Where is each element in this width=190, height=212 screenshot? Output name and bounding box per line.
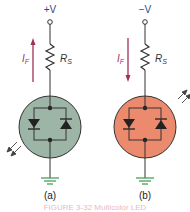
circuit-a: +V RS IF (7, 4, 81, 201)
current-label-b: IF (117, 53, 125, 65)
resistor-a (46, 44, 54, 70)
diagram: +V RS IF (0, 0, 190, 212)
current-arrowhead-up-icon (31, 38, 36, 45)
figure-caption: FIGURE 3-32 Multicolor LED (0, 203, 190, 212)
ground-icon (136, 178, 154, 184)
resistor-label-a: RS (60, 53, 72, 65)
supply-label-a: +V (44, 4, 57, 15)
circuit-b: −V RS IF (b) (114, 4, 190, 201)
sub-caption-b: (b) (139, 190, 151, 201)
supply-terminal-b (143, 20, 148, 25)
light-out-icon (178, 90, 190, 103)
current-label-a: IF (22, 53, 30, 65)
resistor-label-b: RS (155, 53, 167, 65)
sub-caption-a: (a) (44, 190, 56, 201)
supply-terminal-a (48, 20, 53, 25)
ground-icon (41, 178, 59, 184)
current-arrowhead-down-icon (126, 75, 131, 82)
supply-label-b: −V (139, 4, 152, 15)
resistor-b (141, 44, 149, 70)
light-in-icon (7, 142, 21, 156)
